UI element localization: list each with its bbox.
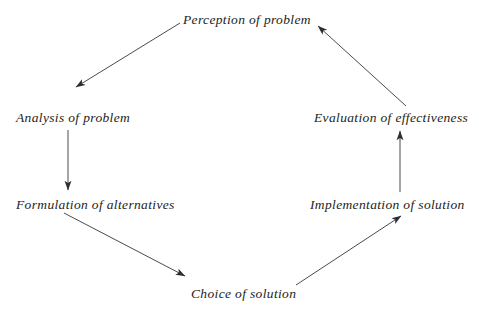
arrow-choice-to-implementation	[296, 216, 401, 285]
node-implementation-of-solution: Implementation of solution	[310, 198, 465, 212]
node-choice-of-solution: Choice of solution	[191, 287, 296, 301]
node-formulation-of-alternatives: Formulation of alternatives	[16, 198, 175, 212]
arrow-formulation-to-choice	[64, 213, 185, 276]
cycle-arrows-canvas	[0, 0, 479, 314]
decision-cycle-diagram: Perception of problem Analysis of proble…	[0, 0, 479, 314]
node-analysis-of-problem: Analysis of problem	[16, 111, 130, 125]
arrow-perception-to-analysis	[76, 23, 180, 87]
node-perception-of-problem: Perception of problem	[183, 13, 311, 27]
node-evaluation-of-effectiveness: Evaluation of effectiveness	[314, 111, 468, 125]
arrow-evaluation-to-perception	[318, 26, 406, 106]
